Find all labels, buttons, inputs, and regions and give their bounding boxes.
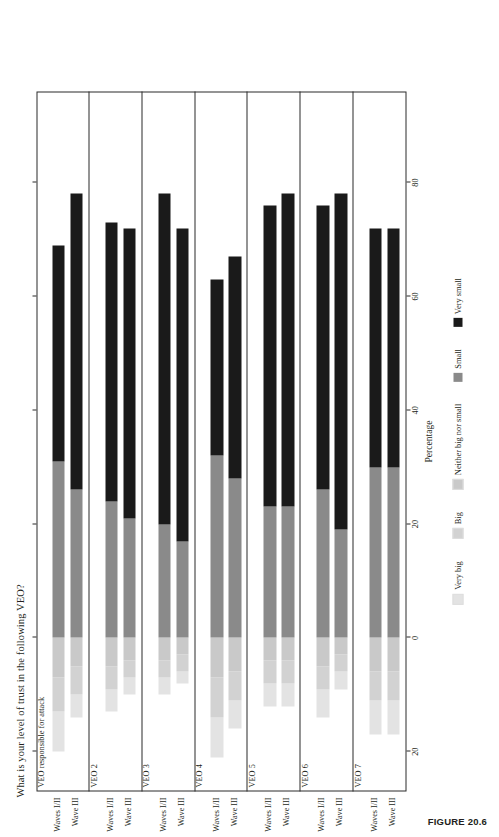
bar-segment xyxy=(123,518,135,638)
bar-segment xyxy=(387,228,399,467)
axis-tick xyxy=(406,409,410,410)
bar-segment xyxy=(176,654,188,671)
legend-item[interactable]: Very small xyxy=(453,278,462,327)
bar-segment xyxy=(158,193,170,523)
chart-title: What is your level of trust in the follo… xyxy=(14,584,25,797)
bar-segment xyxy=(52,677,64,711)
bar-segment xyxy=(158,524,170,638)
category-tick-label: Wave III xyxy=(388,797,396,837)
legend-item[interactable]: Big xyxy=(452,512,463,539)
bar-segment xyxy=(334,529,346,637)
bar-segment xyxy=(316,489,328,637)
bar-1 xyxy=(52,91,64,791)
axis-tick-label: 20 xyxy=(411,747,419,755)
bar-segment xyxy=(228,672,240,700)
axis-tick xyxy=(406,750,410,751)
bar-segment xyxy=(70,694,82,717)
bar-segment xyxy=(52,245,64,461)
bar-segment xyxy=(105,666,117,689)
bar-segment xyxy=(158,637,170,660)
legend-item[interactable]: Neither big nor small xyxy=(452,403,463,489)
legend-swatch xyxy=(452,593,463,604)
category-tick-label: Waves I/II xyxy=(159,797,167,837)
bar-segment xyxy=(334,672,346,689)
bar-segment xyxy=(334,193,346,529)
bar-segment xyxy=(281,660,293,683)
axis-tick xyxy=(406,295,410,296)
bar-segment xyxy=(228,256,240,478)
bar-segment xyxy=(228,637,240,671)
axis-tick-top xyxy=(32,523,36,524)
panel-4: VEO 4 xyxy=(195,91,248,791)
category-tick-label: Waves I/II xyxy=(106,797,114,837)
panel-label: VEO 2 xyxy=(90,764,98,787)
bar-1 xyxy=(158,91,170,791)
panel-label: VEO 5 xyxy=(248,764,256,787)
axis-tick-label: 60 xyxy=(411,292,419,300)
secondary-tick-axis xyxy=(31,91,36,791)
bar-segment xyxy=(158,660,170,677)
bar-1 xyxy=(105,91,117,791)
bar-segment xyxy=(369,637,381,671)
panel-label: VEO responsible for attack xyxy=(37,696,45,787)
axis-tick-top xyxy=(32,636,36,637)
bar-1 xyxy=(210,91,222,791)
bar-2 xyxy=(281,91,293,791)
axis-tick-label: 40 xyxy=(411,406,419,414)
bar-segment xyxy=(334,637,346,654)
bar-segment xyxy=(369,467,381,638)
bar-segment xyxy=(263,660,275,683)
bar-segment xyxy=(281,193,293,506)
panel-label: VEO 4 xyxy=(195,764,203,787)
panel-7: VEO 7 xyxy=(353,91,406,791)
bar-segment xyxy=(263,506,275,637)
axis-tick xyxy=(406,523,410,524)
bar-2 xyxy=(70,91,82,791)
bar-segment xyxy=(316,689,328,717)
bar-segment xyxy=(70,489,82,637)
figure-caption: FIGURE 20.6 xyxy=(428,816,487,827)
bar-1 xyxy=(316,91,328,791)
legend-swatch xyxy=(452,528,463,539)
bar-segment xyxy=(263,205,275,507)
legend-item[interactable]: Small xyxy=(453,349,462,382)
panel-label: VEO 7 xyxy=(354,764,362,787)
bar-segment xyxy=(210,637,222,677)
axis-tick-top xyxy=(32,750,36,751)
legend-swatch xyxy=(453,372,462,381)
value-axis: 20020406080Percentage xyxy=(406,91,440,791)
bar-segment xyxy=(228,478,240,637)
axis-label: Percentage xyxy=(423,420,433,462)
bar-segment xyxy=(176,672,188,683)
bar-segment xyxy=(123,637,135,660)
panel-1: VEO responsible for attack xyxy=(36,91,89,791)
bar-1 xyxy=(369,91,381,791)
axis-tick-label: 0 xyxy=(411,635,419,639)
category-tick-label: Wave III xyxy=(230,797,238,837)
category-tick-label: Waves I/II xyxy=(53,797,61,837)
category-tick-label: Wave III xyxy=(335,797,343,837)
bar-segment xyxy=(387,637,399,671)
category-tick-label: Wave III xyxy=(282,797,290,837)
plot-area: VEO responsible for attackVEO 2VEO 3VEO … xyxy=(36,91,406,791)
axis-tick xyxy=(406,636,410,637)
legend-swatch xyxy=(453,318,462,327)
bar-segment xyxy=(176,228,188,541)
bar-segment xyxy=(123,228,135,518)
legend-swatch xyxy=(452,479,463,490)
axis-tick-top xyxy=(32,181,36,182)
bar-segment xyxy=(70,637,82,665)
bar-segment xyxy=(210,279,222,455)
bar-segment xyxy=(158,677,170,694)
figure-canvas: What is your level of trust in the follo… xyxy=(0,0,499,837)
legend-label: Very small xyxy=(453,278,462,314)
panel-6: VEO 6 xyxy=(300,91,353,791)
category-tick-label: Waves I/II xyxy=(212,797,220,837)
category-tick-label: Wave III xyxy=(71,797,79,837)
bar-segment xyxy=(105,501,117,638)
bar-segment xyxy=(70,193,82,489)
axis-tick-label: 20 xyxy=(411,519,419,527)
legend-item[interactable]: Very big xyxy=(452,561,463,605)
bar-2 xyxy=(228,91,240,791)
bar-segment xyxy=(228,700,240,728)
